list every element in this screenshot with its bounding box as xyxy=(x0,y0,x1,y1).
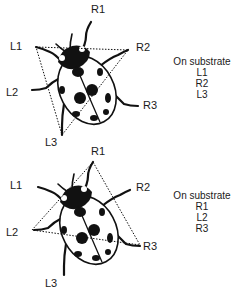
bottom-beetle xyxy=(34,162,140,275)
top-legend-item: L3 xyxy=(162,89,242,100)
top-legend-title: On substrate xyxy=(162,56,242,67)
bottom-label-r1: R1 xyxy=(91,146,105,157)
bottom-label-r3: R3 xyxy=(143,241,157,252)
top-beetle xyxy=(32,22,138,135)
top-legend-item: L1 xyxy=(162,67,242,78)
top-label-l2: L2 xyxy=(6,87,18,98)
top-label-r1: R1 xyxy=(91,4,105,15)
top-label-r3: R3 xyxy=(143,100,157,111)
top-legend-item: R2 xyxy=(162,78,242,89)
top-label-r2: R2 xyxy=(136,42,150,53)
bottom-label-l1: L1 xyxy=(10,180,22,191)
top-label-l1: L1 xyxy=(10,41,22,52)
bottom-legend-item: R1 xyxy=(162,201,242,212)
bottom-legend-item: L2 xyxy=(162,212,242,223)
bottom-label-l3: L3 xyxy=(45,278,57,289)
bottom-legend-title: On substrate xyxy=(162,190,242,201)
top-legend: On substrate L1 R2 L3 xyxy=(162,56,242,100)
top-label-l3: L3 xyxy=(45,137,57,148)
bottom-legend-item: R3 xyxy=(162,223,242,234)
beetle-tripod-diagram xyxy=(0,0,242,297)
bottom-label-r2: R2 xyxy=(136,182,150,193)
bottom-legend: On substrate R1 L2 R3 xyxy=(162,190,242,234)
bottom-label-l2: L2 xyxy=(6,227,18,238)
